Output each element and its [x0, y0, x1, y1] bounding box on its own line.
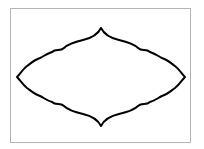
ogee-outline [17, 28, 185, 126]
ogee-lantern-shape [0, 0, 204, 149]
